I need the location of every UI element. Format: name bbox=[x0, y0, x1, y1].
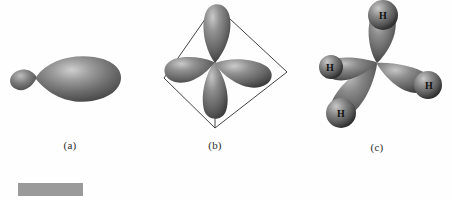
hydrogen-label-top: H bbox=[379, 10, 387, 21]
caption-panel-c: (c) bbox=[337, 141, 417, 153]
methane-art: H H H H bbox=[300, 0, 452, 140]
sp3-back-lobe bbox=[10, 70, 36, 91]
sp3-front-lobe bbox=[36, 56, 121, 102]
caption-panel-a: (a) bbox=[30, 139, 110, 151]
caption-panel-b: (b) bbox=[175, 139, 255, 151]
hydrogen-label-right: H bbox=[425, 80, 433, 91]
panel-methane-molecule: H H H H bbox=[300, 0, 452, 140]
sp3-tetrahedral-art bbox=[150, 0, 300, 136]
figure-root: (a) bbox=[0, 0, 452, 200]
panel-sp3-single-orbital bbox=[0, 24, 140, 134]
hydrogen-label-left: H bbox=[326, 62, 334, 73]
hydrogen-label-lower-left: H bbox=[337, 108, 345, 119]
sp3-lobe-top bbox=[203, 4, 230, 63]
panel-sp3-tetrahedral-set bbox=[150, 0, 300, 136]
sp3-single-orbital-art bbox=[0, 24, 140, 134]
gray-swatch-bar bbox=[18, 183, 83, 196]
